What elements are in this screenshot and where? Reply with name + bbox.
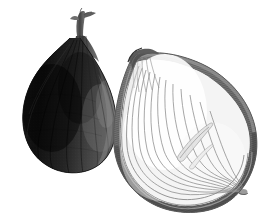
onion-engraving-svg: Onion Two onions rendered as a vintage e…	[0, 0, 271, 224]
illustration-canvas: Onion Two onions rendered as a vintage e…	[0, 0, 271, 224]
